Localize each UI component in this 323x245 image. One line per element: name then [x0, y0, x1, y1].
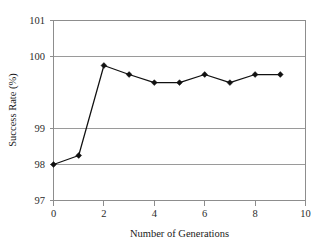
x-tick-label-10: 10	[300, 208, 311, 219]
x-tick-label-0: 0	[51, 208, 56, 219]
x-tick-label-6: 6	[202, 208, 207, 219]
y-tick-label-100: 100	[29, 51, 45, 62]
line-chart-canvas: 101 100 99 98 97 0 2 4 6 8 10 Number of …	[0, 0, 323, 245]
x-tick-label-2: 2	[101, 208, 106, 219]
y-axis-title: Success Rate (%)	[7, 73, 19, 147]
chart-background	[0, 0, 323, 245]
x-axis-title: Number of Generations	[130, 228, 229, 239]
y-tick-label-97: 97	[35, 195, 46, 206]
x-tick-label-8: 8	[252, 208, 257, 219]
y-tick-label-99: 99	[35, 123, 46, 134]
y-tick-label-98: 98	[35, 159, 46, 170]
y-tick-label-101: 101	[29, 15, 45, 26]
x-tick-label-4: 4	[152, 208, 158, 219]
chart-figure: 101 100 99 98 97 0 2 4 6 8 10 Number of …	[0, 0, 323, 245]
